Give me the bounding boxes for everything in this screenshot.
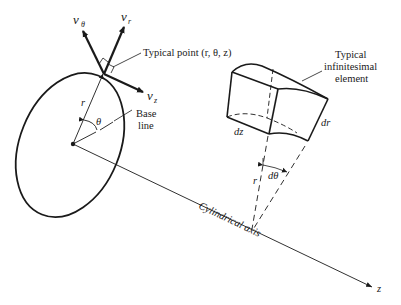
typical-point-leader [113, 53, 141, 67]
base-line-dashed [100, 122, 113, 130]
base-line-solid [73, 132, 96, 144]
element-label-2: infinitesimal [324, 61, 377, 72]
v-theta-subscript: θ [81, 20, 85, 29]
cylindrical-axis-label: Cylindrical axis [197, 200, 263, 239]
element-leader [302, 71, 322, 81]
element-label-1: Typical [335, 49, 366, 60]
element-r-label: r [253, 175, 258, 186]
right-angle-mark-2 [108, 64, 114, 73]
dr-label: dr [321, 117, 331, 128]
v-theta-label: v [73, 12, 79, 27]
radius-line [73, 74, 103, 144]
element-label-3: element [335, 73, 368, 84]
base-line-label-2: line [138, 120, 154, 131]
base-line-label-1: Base [136, 108, 157, 119]
dtheta-label: dθ [268, 170, 278, 181]
z-axis-label: z [376, 283, 381, 294]
theta-label: θ [96, 116, 101, 127]
right-angle-mark-1 [99, 58, 108, 64]
v-z-label: v [147, 88, 153, 103]
typical-point-label: Typical point (r, θ, z) [143, 47, 232, 59]
dz-label: dz [234, 126, 243, 137]
v-r-label: v [121, 9, 127, 24]
radial-dashed-right [254, 146, 305, 228]
v-theta-arrow [83, 31, 104, 74]
cylindrical-coordinates-diagram: z Cylindrical axis r Base line θ v θ v r… [0, 0, 401, 305]
v-z-subscript: z [153, 96, 158, 105]
v-r-subscript: r [128, 17, 132, 26]
radius-label: r [81, 97, 86, 108]
